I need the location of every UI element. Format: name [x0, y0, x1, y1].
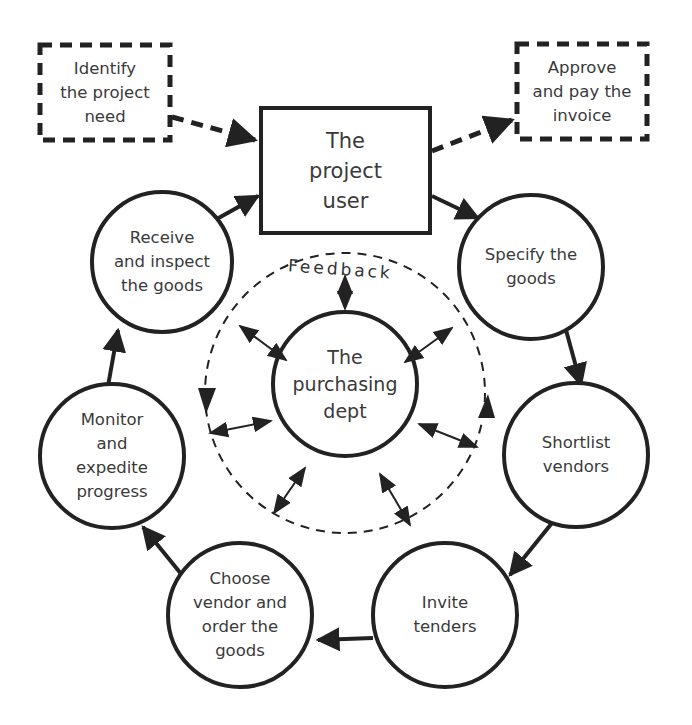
identify-need-text: Identify the project need — [40, 45, 170, 140]
feedback-arrowhead-left — [198, 388, 216, 414]
receive-text: Receive and inspect the goods — [92, 192, 232, 332]
monitor-to-receive-arrow — [108, 330, 118, 386]
shortlist-text: Shortlist vendors — [504, 383, 648, 527]
choose-text: Choose vendor and order the goods — [168, 543, 312, 687]
invite-text: Invite tenders — [373, 543, 517, 687]
invite-to-choose-arrow — [318, 638, 373, 640]
project-user-text: The project user — [261, 108, 430, 233]
purchasing-dept-text: The purchasing dept — [273, 312, 417, 456]
monitor-text: Monitor and expedite progress — [40, 384, 184, 528]
feedback-arrowhead-right — [478, 394, 495, 418]
user-to-approve-arrow — [432, 120, 512, 151]
identify-to-user-arrow — [172, 117, 255, 140]
approve-invoice-text: Approve and pay the invoice — [517, 44, 647, 139]
specify-text: Specify the goods — [459, 195, 603, 339]
